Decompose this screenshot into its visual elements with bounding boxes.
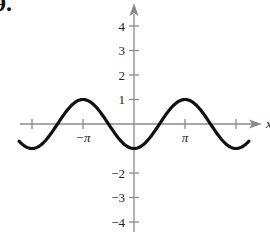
y-tick-label: 2 [119,68,126,83]
y-tick-label: −2 [111,166,125,181]
y-tick-label: 1 [119,92,126,107]
x-axis-label: x [265,116,270,131]
x-tick-label: π [182,130,189,145]
cosine-graph: −ππ 4321−2−3−4 x [0,0,270,232]
axes [20,3,262,232]
y-tick-label: −3 [111,190,125,205]
y-tick-label: −4 [111,215,125,230]
x-tick-label: −π [75,130,91,145]
y-tick-label: 3 [119,43,126,58]
y-tick-label: 4 [119,19,126,34]
